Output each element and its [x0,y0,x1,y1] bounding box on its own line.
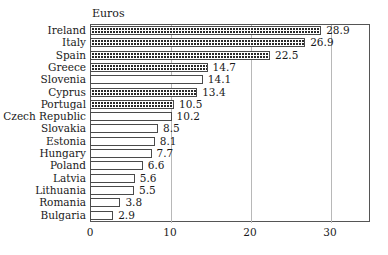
bar [90,112,172,121]
bar [90,26,321,35]
bar-row: Slovenia14.1 [0,74,388,86]
bar-row: Italy26.9 [0,37,388,49]
bar-row: Ireland28.9 [0,25,388,37]
bar-value-label: 5.5 [139,184,156,196]
x-tick-label: 10 [155,226,185,238]
bar [90,75,203,84]
category-label: Hungary [0,147,86,159]
bar-value-label: 22.5 [275,49,298,61]
bar-row: Romania3.8 [0,197,388,209]
category-label: Portugal [0,98,86,110]
bar [90,186,134,195]
bar-row: Estonia8.1 [0,136,388,148]
bar-value-label: 14.7 [213,61,236,73]
x-tick-label: 0 [75,226,105,238]
bar-row: Hungary7.7 [0,148,388,160]
bar-value-label: 10.5 [179,98,202,110]
category-label: Czech Republic [0,110,86,122]
bar-chart: Euros Ireland28.9Italy26.9Spain22.5Greec… [0,0,388,255]
category-label: Lithuania [0,184,86,196]
bar-row: Lithuania5.5 [0,185,388,197]
bar-value-label: 28.9 [326,24,349,36]
x-tick-label: 30 [315,226,345,238]
bar [90,149,152,158]
category-label: Poland [0,159,86,171]
bar-row: Portugal10.5 [0,99,388,111]
bar-row: Spain22.5 [0,50,388,62]
bar-value-label: 7.7 [157,147,174,159]
bar [90,124,158,133]
bar-value-label: 6.6 [148,159,165,171]
bar-rows: Ireland28.9Italy26.9Spain22.5Greece14.7S… [0,24,388,222]
bar-value-label: 10.2 [177,110,200,122]
bar [90,161,143,170]
bar-row: Bulgaria2.9 [0,210,388,222]
bar-value-label: 14.1 [208,73,231,85]
x-tick-label: 20 [235,226,265,238]
bar [90,198,120,207]
bar-value-label: 13.4 [202,86,225,98]
bar-row: Cyprus13.4 [0,87,388,99]
category-label: Slovakia [0,122,86,134]
category-label: Ireland [0,24,86,36]
category-label: Latvia [0,172,86,184]
category-label: Greece [0,61,86,73]
chart-title: Euros [92,7,125,20]
bar-value-label: 8.1 [160,135,177,147]
category-label: Italy [0,36,86,48]
category-label: Bulgaria [0,209,86,221]
bar [90,211,113,220]
bar-value-label: 5.6 [140,172,157,184]
bar-row: Poland6.6 [0,160,388,172]
category-label: Cyprus [0,86,86,98]
bar-row: Greece14.7 [0,62,388,74]
bar [90,100,174,109]
bar-row: Slovakia8.5 [0,123,388,135]
bar [90,38,305,47]
bar [90,51,270,60]
bar [90,88,197,97]
category-label: Romania [0,196,86,208]
bar-value-label: 2.9 [118,209,135,221]
bar-value-label: 3.8 [125,196,142,208]
category-label: Estonia [0,135,86,147]
bar-value-label: 8.5 [163,122,180,134]
category-label: Slovenia [0,73,86,85]
bar-row: Latvia5.6 [0,173,388,185]
bar [90,174,135,183]
bar [90,137,155,146]
bar-value-label: 26.9 [310,36,333,48]
bar-row: Czech Republic10.2 [0,111,388,123]
bar [90,63,208,72]
category-label: Spain [0,49,86,61]
